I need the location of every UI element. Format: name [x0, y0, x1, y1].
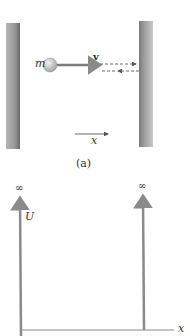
x-direction-label: x	[91, 134, 97, 147]
right-potential-wall	[143, 196, 144, 330]
mass-label: m	[35, 57, 45, 70]
figure-a-caption: (a)	[76, 157, 91, 170]
potential-axis-label: U	[25, 210, 34, 223]
right-wall	[139, 21, 153, 147]
velocity-label: v	[93, 51, 99, 62]
left-potential-wall	[20, 198, 21, 336]
x-axis-label: x	[178, 322, 184, 335]
right-infinity-label: ∞	[138, 180, 146, 191]
left-wall	[6, 23, 20, 149]
left-infinity-label: ∞	[15, 182, 23, 193]
